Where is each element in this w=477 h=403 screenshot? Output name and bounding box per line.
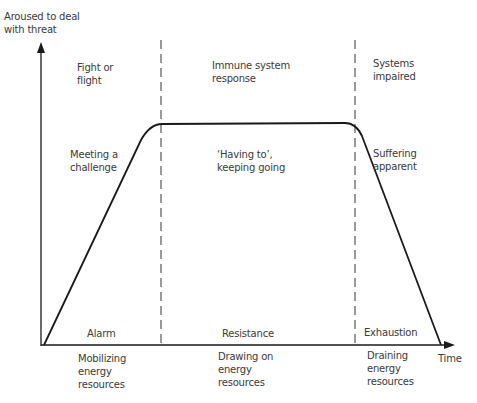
x-axis-label: Time: [438, 352, 462, 365]
phase-3-curve-label: Suffering apparent: [373, 147, 417, 173]
phase-1-curve-label: Meeting a challenge: [70, 148, 118, 174]
phase-3-bottom-label: Draining energy resources: [367, 349, 414, 388]
phase-2-bottom-label: Drawing on energy resources: [218, 350, 273, 389]
x-axis-arrow-icon: [444, 341, 455, 349]
y-axis-arrow-icon: [37, 42, 45, 53]
phase-2-top-label: Immune system response: [212, 59, 290, 85]
phase-2-name: Resistance: [222, 327, 274, 340]
phase-2-curve-label: ‘Having to’, keeping going: [217, 148, 285, 174]
phase-3-top-label: Systems impaired: [373, 57, 416, 83]
y-axis-label: Aroused to deal with threat: [4, 10, 80, 36]
phase-1-bottom-label: Mobilizing energy resources: [78, 352, 126, 391]
phase-1-top-label: Fight or flight: [77, 61, 113, 87]
phase-1-name: Alarm: [87, 327, 115, 340]
phase-3-name: Exhaustion: [364, 326, 417, 339]
